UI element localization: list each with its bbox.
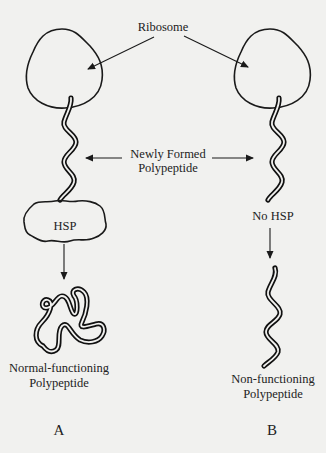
ribosome-arrow-a (88, 37, 154, 69)
non-functioning-label-line2: Polypeptide (243, 387, 303, 401)
non-functioning-label-line1: Non-functioning (231, 372, 315, 386)
polypeptide-strand-a (60, 98, 76, 200)
folded-polypeptide-a (36, 289, 104, 352)
panel-label-b: B (267, 422, 277, 438)
unfolded-polypeptide-b (264, 268, 280, 366)
newly-formed-label-line2: Polypeptide (138, 161, 198, 175)
panel-label-a: A (54, 422, 65, 438)
newly-formed-label-line1: Newly Formed (130, 147, 206, 161)
normal-functioning-label-line1: Normal-functioning (9, 361, 110, 375)
ribosome-a-shape (26, 29, 102, 108)
polypeptide-strand-b (268, 98, 284, 200)
ribosome-b-shape (234, 29, 310, 108)
ribosome-arrow-b (184, 36, 248, 67)
normal-functioning-label-line2: Polypeptide (29, 376, 89, 390)
ribosome-label: Ribosome (138, 20, 189, 34)
hsp-label: HSP (54, 219, 77, 233)
no-hsp-label: No HSP (252, 209, 293, 223)
hsp-diagram: Ribosome Newly Formed Polypeptide HSP No… (0, 0, 326, 453)
